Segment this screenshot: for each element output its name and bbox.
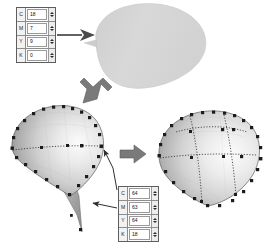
shaded-mesh-surface-left: [11, 105, 104, 232]
stepper-down-icon[interactable]: [153, 235, 157, 237]
spinner-stepper[interactable]: [48, 22, 55, 35]
spinner-value-field[interactable]: 9: [27, 37, 47, 48]
stepper-down-icon[interactable]: [50, 15, 54, 17]
spinner-stepper[interactable]: [151, 187, 158, 200]
spinner-row[interactable]: K 0: [17, 49, 55, 62]
shaded-mesh-surface-right: [158, 111, 263, 208]
stepper-up-icon[interactable]: [50, 39, 54, 41]
stepper-up-icon[interactable]: [153, 205, 157, 207]
spinner-value-field[interactable]: 0: [27, 50, 47, 61]
spinner-row-label: M: [17, 22, 26, 35]
spinner-row[interactable]: M 63: [119, 201, 158, 215]
arrow-table-to-tail-point: [93, 203, 117, 208]
spinner-row[interactable]: Y 9: [17, 36, 55, 50]
stepper-up-icon[interactable]: [153, 232, 157, 234]
spinner-value-field[interactable]: 18: [27, 9, 47, 20]
color-value-spinner-panel-top[interactable]: C 18 M 7 Y 9 K 0: [16, 7, 56, 63]
stepper-down-icon[interactable]: [153, 194, 157, 196]
stepper-up-icon[interactable]: [153, 191, 157, 193]
stepper-down-icon[interactable]: [50, 56, 54, 58]
spinner-stepper[interactable]: [48, 8, 55, 21]
spinner-row-label: M: [119, 201, 128, 214]
stepper-down-icon[interactable]: [153, 221, 157, 223]
arrow-blob-to-mesh: [80, 78, 112, 103]
spinner-row[interactable]: C 18: [17, 8, 55, 22]
stepper-up-icon[interactable]: [50, 26, 54, 28]
stepper-up-icon[interactable]: [153, 218, 157, 220]
arrow-table-to-edge-point: [104, 150, 117, 190]
spinner-stepper[interactable]: [151, 228, 158, 241]
stepper-down-icon[interactable]: [50, 42, 54, 44]
stepper-down-icon[interactable]: [50, 29, 54, 31]
spinner-stepper[interactable]: [151, 201, 158, 214]
spinner-value-field[interactable]: 18: [129, 229, 150, 240]
spinner-row[interactable]: M 7: [17, 22, 55, 36]
spinner-row-label: K: [119, 228, 128, 241]
arrow-table-to-blob: [57, 29, 95, 41]
arrow-mesh-to-mesh: [120, 145, 146, 163]
spinner-stepper[interactable]: [48, 49, 55, 62]
spinner-row[interactable]: Y 64: [119, 215, 158, 229]
stepper-up-icon[interactable]: [50, 12, 54, 14]
spinner-row[interactable]: K 18: [119, 228, 158, 241]
spinner-value-field[interactable]: 64: [129, 216, 150, 227]
spinner-value-field[interactable]: 64: [129, 188, 150, 199]
figure-canvas: C 18 M 7 Y 9 K 0: [0, 0, 267, 248]
spinner-row-label: Y: [17, 36, 26, 49]
spinner-row-label: Y: [119, 215, 128, 228]
plain-filled-blob-shape: [84, 4, 206, 89]
spinner-row-label: C: [119, 187, 128, 200]
stepper-up-icon[interactable]: [50, 53, 54, 55]
spinner-value-field[interactable]: 7: [27, 23, 47, 34]
spinner-row-label: C: [17, 8, 26, 21]
spinner-row[interactable]: C 64: [119, 187, 158, 201]
spinner-stepper[interactable]: [48, 36, 55, 49]
spinner-stepper[interactable]: [151, 215, 158, 228]
spinner-value-field[interactable]: 63: [129, 202, 150, 213]
spinner-row-label: K: [17, 49, 26, 62]
coordinate-value-spinner-panel-bottom[interactable]: C 64 M 63 Y 64 K 18: [118, 186, 159, 242]
stepper-down-icon[interactable]: [153, 208, 157, 210]
